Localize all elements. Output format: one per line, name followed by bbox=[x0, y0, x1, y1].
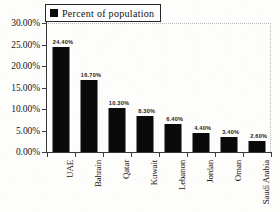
y-axis-tick-label: 25.00% bbox=[0, 40, 40, 50]
x-axis-category-label: Lebanon bbox=[177, 160, 187, 190]
y-axis-tick-label: 15.00% bbox=[0, 83, 40, 93]
y-axis-tick bbox=[42, 109, 47, 110]
bar bbox=[193, 133, 210, 152]
bar-value-label: 8.30% bbox=[138, 108, 155, 114]
y-axis-tick bbox=[42, 23, 47, 24]
x-axis-category-label: Oman bbox=[233, 160, 243, 181]
bar bbox=[53, 47, 70, 152]
x-axis-tick bbox=[271, 152, 272, 157]
x-axis-category-label: Jordan bbox=[205, 160, 215, 183]
x-axis-tick bbox=[243, 152, 244, 157]
bar bbox=[109, 108, 126, 152]
y-axis-tick-label: 5.00% bbox=[0, 126, 40, 136]
bar-value-label: 4.40% bbox=[194, 125, 211, 131]
legend-label: Percent of population bbox=[62, 8, 154, 19]
x-axis-tick bbox=[75, 152, 76, 157]
y-axis-labels: 0.00%5.00%10.00%15.00%20.00%25.00%30.00% bbox=[0, 0, 40, 212]
x-axis-tick bbox=[159, 152, 160, 157]
bar bbox=[221, 137, 238, 152]
y-axis-tick bbox=[42, 88, 47, 89]
y-axis-tick-label: 30.00% bbox=[0, 18, 40, 28]
bar-slot: 16.70% bbox=[75, 23, 103, 152]
x-axis-category-label: Kuwait bbox=[149, 160, 159, 185]
y-axis-tick-label: 10.00% bbox=[0, 104, 40, 114]
bar-value-label: 10.30% bbox=[109, 100, 129, 106]
x-axis-tick bbox=[103, 152, 104, 157]
bar-slot: 8.30% bbox=[131, 23, 159, 152]
bar-slot: 24.40% bbox=[47, 23, 75, 152]
bar-value-label: 2.60% bbox=[250, 133, 267, 139]
bar-series-percent-of-population: 24.40%16.70%10.30%8.30%6.40%4.40%3.40%2.… bbox=[47, 23, 271, 152]
x-axis-category-label: Qatar bbox=[121, 160, 131, 179]
bar-slot: 10.30% bbox=[103, 23, 131, 152]
x-axis-tick bbox=[215, 152, 216, 157]
x-axis-category-label: UAE bbox=[65, 160, 75, 178]
y-axis-tick bbox=[42, 66, 47, 67]
bar bbox=[81, 80, 98, 152]
bar-slot: 6.40% bbox=[159, 23, 187, 152]
bar-slot: 3.40% bbox=[215, 23, 243, 152]
bar-value-label: 6.40% bbox=[166, 116, 183, 122]
bar-value-label: 16.70% bbox=[81, 72, 101, 78]
bar-slot: 2.60% bbox=[243, 23, 271, 152]
bar bbox=[249, 141, 266, 152]
bar bbox=[165, 124, 182, 152]
square-marker-icon bbox=[50, 9, 58, 17]
bar-value-label: 24.40% bbox=[53, 39, 73, 45]
x-axis-category-label: Bahrain bbox=[93, 160, 103, 187]
y-axis-tick bbox=[42, 45, 47, 46]
y-axis-tick bbox=[42, 131, 47, 132]
chart-legend: Percent of population bbox=[45, 4, 161, 22]
y-axis-tick-label: 20.00% bbox=[0, 61, 40, 71]
bar-chart-figure: 0.00%5.00%10.00%15.00%20.00%25.00%30.00%… bbox=[0, 0, 280, 212]
bar bbox=[137, 116, 154, 152]
bar-slot: 4.40% bbox=[187, 23, 215, 152]
y-axis-tick bbox=[42, 152, 47, 153]
y-axis-tick-label: 0.00% bbox=[0, 147, 40, 157]
bar-value-label: 3.40% bbox=[222, 129, 239, 135]
x-axis-tick bbox=[187, 152, 188, 157]
x-axis-tick bbox=[47, 152, 48, 157]
x-axis-tick bbox=[131, 152, 132, 157]
x-axis-category-label: Saudi Arabia bbox=[261, 160, 271, 204]
